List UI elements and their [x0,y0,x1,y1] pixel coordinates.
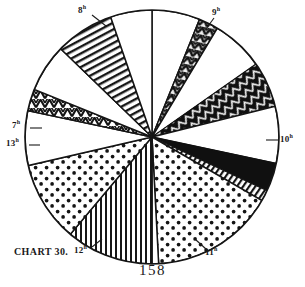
pie-sectors [25,10,279,264]
sector-group [25,10,279,264]
chart-caption: CHART 30. [14,246,68,257]
pie-chart-svg [0,0,305,287]
tick-label-10h: 10h [280,133,293,144]
tick-label-12h: 12h [74,244,87,255]
page-folio: 158 [0,262,305,279]
tick-label-9h: 9h [212,6,220,17]
tick-label-7h: 7h [12,119,20,130]
tick-label-8h: 8h [78,4,86,15]
chart-figure: 8h 9h 10h 11h 12h 13h 7h CHART 30. 158 [0,0,305,287]
tick-label-11h: 11h [205,246,217,257]
tick-label-13h: 13h [6,137,19,148]
